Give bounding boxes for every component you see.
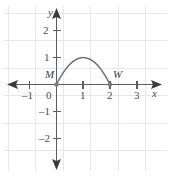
y-axis-label: y [48, 7, 53, 18]
x-tick-label-zero: 0 [46, 90, 52, 101]
x-tick-label-minus1: –1 [22, 90, 33, 101]
x-tick-label-one: 1 [80, 90, 86, 101]
point-label-m: M [45, 69, 54, 80]
point-marker-m [54, 82, 58, 86]
point-label-w: W [113, 69, 122, 80]
graph-figure: –1 0 1 2 3 2 1 –1 –2 y x M W [0, 0, 170, 177]
y-tick-label-one: 1 [44, 52, 50, 63]
x-tick-label-two: 2 [107, 90, 113, 101]
x-axis-label: x [152, 88, 157, 99]
y-tick-label-minus2: –2 [39, 133, 50, 144]
y-tick-label-minus1: –1 [39, 106, 50, 117]
point-marker-w [108, 82, 112, 86]
y-tick-label-two: 2 [43, 25, 49, 36]
parabola-curve [57, 58, 111, 85]
x-tick-label-three: 3 [134, 90, 140, 101]
